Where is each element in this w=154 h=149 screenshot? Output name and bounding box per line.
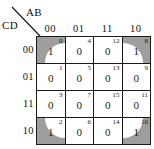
kmap-cell[interactable]: 9 0: [123, 64, 152, 91]
column-header-0: 00: [36, 22, 65, 35]
kmap-cell[interactable]: 8 1: [123, 37, 152, 64]
kmap-cell[interactable]: 1 0: [37, 64, 66, 91]
cell-value: 1: [123, 44, 151, 58]
row-header-2: 11: [10, 90, 34, 117]
cell-value: 0: [37, 71, 65, 85]
cell-value: 0: [94, 125, 122, 139]
cell-value: 1: [37, 125, 65, 139]
cell-value: 0: [37, 98, 65, 112]
row-variables-label: CD: [2, 20, 18, 31]
cell-value: 0: [123, 71, 151, 85]
cell-value: 0: [94, 44, 122, 58]
kmap-cell[interactable]: 14 0: [94, 118, 123, 145]
kmap-cell[interactable]: 12 0: [94, 37, 123, 64]
karnaugh-grid: 0 1 4 0 12 0 8 1 1 0: [36, 36, 151, 145]
kmap-cell[interactable]: 0 1: [37, 37, 66, 64]
kmap-cell[interactable]: 15 0: [94, 91, 123, 118]
cell-value: 0: [94, 71, 122, 85]
cell-value: 0: [66, 71, 94, 85]
cell-value: 1: [37, 44, 65, 58]
cell-value: 0: [94, 98, 122, 112]
kmap-cell[interactable]: 6 0: [66, 118, 95, 145]
kmap-cell[interactable]: 11 0: [123, 91, 152, 118]
kmap-row: 0 1 4 0 12 0 8 1: [37, 37, 151, 64]
row-header-column: 00 01 11 10: [10, 36, 34, 144]
kmap-cell[interactable]: 13 0: [94, 64, 123, 91]
kmap-cell[interactable]: 7 0: [66, 91, 95, 118]
cell-value: 0: [66, 125, 94, 139]
cell-value: 0: [123, 98, 151, 112]
kmap-cell[interactable]: 2 1: [37, 118, 66, 145]
kmap-cell[interactable]: 3 0: [37, 91, 66, 118]
row-header-0: 00: [10, 36, 34, 63]
column-variables-label: AB: [26, 7, 42, 18]
cell-value: 0: [66, 44, 94, 58]
cell-value: 1: [123, 125, 151, 139]
kmap-cell[interactable]: 5 0: [66, 64, 95, 91]
column-header-1: 01: [65, 22, 94, 35]
row-header-1: 01: [10, 63, 34, 90]
row-header-3: 10: [10, 117, 34, 144]
kmap-cell[interactable]: 4 0: [66, 37, 95, 64]
column-header-row: 00 01 11 10: [36, 22, 150, 35]
column-header-3: 10: [122, 22, 151, 35]
karnaugh-map-figure: AB CD 00 01 11 10 00 01 11 10 0 1 4 0: [0, 0, 154, 149]
column-header-2: 11: [93, 22, 122, 35]
kmap-row: 2 1 6 0 14 0 10 1: [37, 118, 151, 145]
kmap-row: 1 0 5 0 13 0 9 0: [37, 64, 151, 91]
kmap-row: 3 0 7 0 15 0 11 0: [37, 91, 151, 118]
cell-value: 0: [66, 98, 94, 112]
kmap-cell[interactable]: 10 1: [123, 118, 152, 145]
